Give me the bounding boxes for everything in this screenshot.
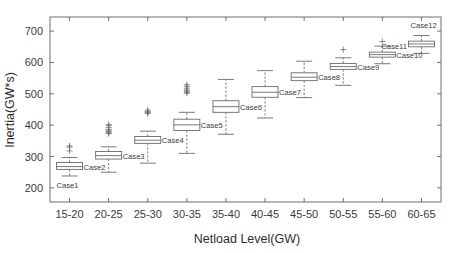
x-tick-label: 40-45 — [251, 208, 279, 220]
case-label: Case6 — [240, 103, 262, 112]
x-tick-label: 20-25 — [95, 208, 123, 220]
case-label: Case9 — [357, 63, 379, 72]
case-label: Case11 — [381, 42, 407, 51]
x-tick-label: 55-60 — [368, 208, 396, 220]
y-tick-label: 600 — [25, 56, 43, 68]
case-label: Case3 — [123, 152, 145, 161]
case-label: Case7 — [279, 88, 301, 97]
y-tick-label: 700 — [25, 25, 43, 37]
x-tick-label: 35-40 — [212, 208, 240, 220]
box-iqr — [57, 162, 83, 169]
case-label: Case5 — [201, 121, 223, 130]
x-tick-label: 15-20 — [55, 208, 83, 220]
y-axis-title: Inertia(GW*s) — [3, 72, 17, 148]
box-plot-figure: 200300400500600700 15-2020-2525-3030-353… — [0, 0, 449, 253]
case-label: Case4 — [162, 136, 184, 145]
chart-canvas: 200300400500600700 15-2020-2525-3030-353… — [0, 0, 449, 253]
y-tick-label: 300 — [25, 151, 43, 163]
box-iqr — [291, 73, 317, 81]
case-label: Case2 — [84, 163, 106, 172]
x-tick-label: 30-35 — [173, 208, 201, 220]
x-axis-title: Netload Level(GW) — [194, 232, 300, 246]
x-tick-label: 45-50 — [290, 208, 318, 220]
case-label: Case10 — [396, 51, 422, 60]
y-tick-label: 400 — [25, 119, 43, 131]
x-tick-label: 60-65 — [407, 208, 435, 220]
case-label: Case12 — [410, 21, 436, 30]
y-tick-label: 200 — [25, 182, 43, 194]
x-tick-label: 25-30 — [134, 208, 162, 220]
y-tick-label: 500 — [25, 88, 43, 100]
case-label: Case8 — [318, 73, 340, 82]
case-label: Case1 — [57, 181, 79, 190]
x-tick-label: 50-55 — [329, 208, 357, 220]
